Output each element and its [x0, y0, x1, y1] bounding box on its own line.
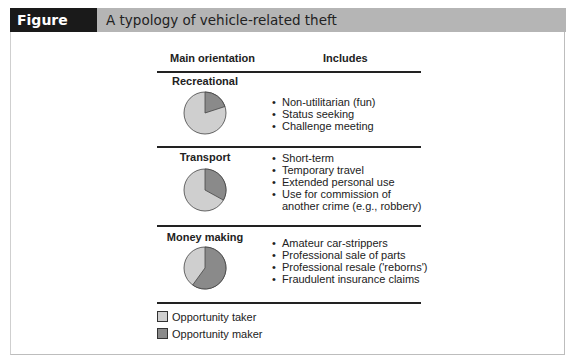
list-item: Non-utilitarian (fun) [272, 96, 376, 108]
list-item: Extended personal use [272, 176, 421, 188]
pie-chart-transport [183, 168, 227, 212]
category-recreational: Recreational [160, 75, 250, 87]
legend-item-taker: Opportunity taker [157, 308, 262, 325]
legend-item-maker: Opportunity maker [157, 325, 262, 342]
header-includes: Includes [323, 52, 368, 64]
list-item: Challenge meeting [272, 120, 376, 132]
list-item: Use for commission of [272, 188, 421, 200]
legend-label: Opportunity maker [172, 328, 262, 340]
includes-list-recreational: Non-utilitarian (fun) Status seeking Cha… [272, 96, 376, 132]
row-rule [157, 146, 421, 148]
list-item: Fraudulent insurance claims [272, 273, 427, 285]
category-money-making: Money making [160, 231, 250, 243]
includes-list-money-making: Amateur car-strippers Professional sale … [272, 237, 427, 285]
list-item-continuation: another crime (e.g., robbery) [272, 200, 421, 212]
list-item: Professional sale of parts [272, 249, 427, 261]
includes-list-transport: Short-term Temporary travel Extended per… [272, 152, 421, 212]
row-rule [157, 225, 421, 227]
pie-chart-recreational [183, 91, 227, 135]
list-item: Amateur car-strippers [272, 237, 427, 249]
list-item: Professional resale ('reborns') [272, 261, 427, 273]
legend-swatch-taker [157, 311, 168, 322]
legend-label: Opportunity taker [172, 311, 256, 323]
legend: Opportunity taker Opportunity maker [157, 308, 262, 342]
pie-chart-money-making [183, 246, 227, 290]
figure-title: A typology of vehicle-related theft [106, 8, 337, 32]
list-item: Temporary travel [272, 164, 421, 176]
bottom-rule [157, 302, 421, 304]
header-main-orientation: Main orientation [170, 52, 255, 64]
header-rule [157, 71, 421, 73]
list-item: Status seeking [272, 108, 376, 120]
list-item: Short-term [272, 152, 421, 164]
figure-title-bar: Figure 20.16 A typology of vehicle-relat… [10, 8, 566, 32]
figure-label: Figure 20.16 [10, 8, 97, 32]
legend-swatch-maker [157, 328, 168, 339]
category-transport: Transport [160, 151, 250, 163]
